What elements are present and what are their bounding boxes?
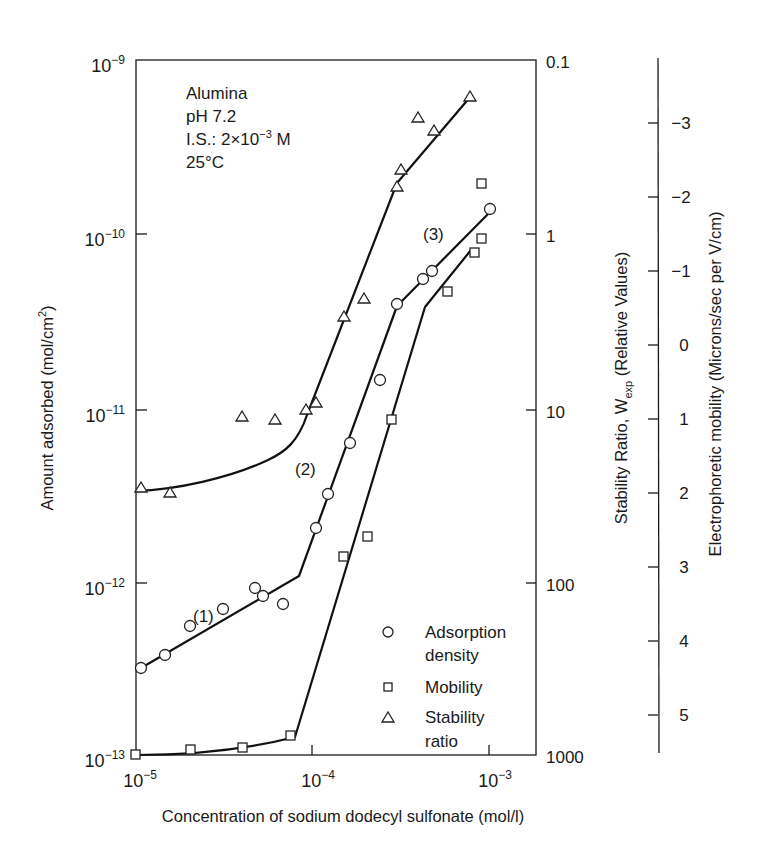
stability-ratio-tick-labels: 0.1 1 10 100 1000 (546, 53, 584, 767)
adsorption-markers (136, 204, 496, 674)
svg-text:25°C: 25°C (186, 153, 224, 172)
legend-label-stability: Stability (425, 708, 485, 727)
svg-text:−2: −2 (671, 188, 690, 207)
svg-text:pH 7.2: pH 7.2 (186, 107, 236, 126)
svg-text:I.S.: 2×10−3 M: I.S.: 2×10−3 M (186, 128, 291, 149)
svg-text:Alumina: Alumina (186, 84, 248, 103)
left-y-ticks (136, 234, 147, 583)
svg-text:1000: 1000 (546, 748, 584, 767)
left-y-tick-labels: 10−9 10−10 10−11 10−12 10−13 (85, 53, 126, 771)
x-ticks (312, 745, 489, 755)
svg-text:10−10: 10−10 (85, 227, 126, 250)
legend-label-mobility: Mobility (425, 678, 483, 697)
mobility-fit-line (136, 250, 471, 755)
svg-text:10−5: 10−5 (123, 768, 157, 791)
svg-text:10−3: 10−3 (478, 768, 512, 791)
stability-ratio-axis-label: Stability Ratio, Wexp (Relative Values) (612, 252, 634, 524)
adsorption-fit-line (141, 212, 490, 668)
mobility-tick-labels: −3 −2 −1 0 1 2 3 4 5 (671, 114, 690, 725)
mobility-axis (648, 58, 659, 753)
svg-text:0: 0 (679, 336, 688, 355)
x-axis-label: Concentration of sodium dodecyl sulfonat… (162, 807, 524, 825)
right-y-ticks (526, 234, 536, 583)
x-tick-labels: 10−5 10−4 10−3 (123, 768, 512, 791)
legend-square-icon (384, 683, 392, 691)
legend-label-adsorption: Adsorption (425, 623, 506, 642)
svg-text:4: 4 (679, 632, 688, 651)
legend-circle-icon (383, 627, 393, 637)
legend-triangle-icon (382, 712, 394, 722)
svg-text:10−13: 10−13 (85, 748, 126, 771)
svg-text:(3): (3) (423, 225, 444, 244)
svg-text:10−9: 10−9 (91, 53, 125, 76)
svg-text:10−11: 10−11 (86, 403, 126, 426)
svg-text:5: 5 (679, 706, 688, 725)
svg-text:10−12: 10−12 (85, 576, 126, 599)
svg-text:1: 1 (546, 227, 555, 246)
svg-text:100: 100 (546, 576, 574, 595)
y-axis-label: Amount adsorbed (mol/cm2) (36, 305, 56, 510)
region-labels: (1) (2) (3) (193, 225, 444, 626)
svg-text:10: 10 (546, 403, 565, 422)
svg-text:−1: −1 (671, 262, 690, 281)
chart: 10−9 10−10 10−11 10−12 10−13 10−5 10−4 1… (0, 0, 769, 862)
legend-label-stability-2: ratio (425, 732, 458, 751)
legend: Adsorption density Mobility Stability ra… (382, 623, 506, 751)
svg-text:−3: −3 (671, 114, 690, 133)
mobility-axis-label: Electrophoretic mobility (Microns/sec pe… (706, 212, 724, 557)
svg-text:0.1: 0.1 (546, 53, 570, 72)
svg-text:1: 1 (679, 410, 688, 429)
conditions-annotation: Alumina pH 7.2 I.S.: 2×10−3 M 25°C (186, 84, 291, 172)
svg-text:2: 2 (679, 484, 688, 503)
svg-text:10−4: 10−4 (301, 768, 335, 791)
svg-text:3: 3 (679, 558, 688, 577)
legend-label-adsorption-2: density (425, 646, 479, 665)
svg-text:(2): (2) (295, 460, 316, 479)
svg-text:(1): (1) (193, 607, 214, 626)
